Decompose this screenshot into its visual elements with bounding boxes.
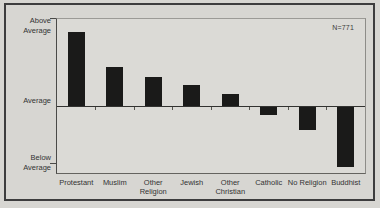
bar-no-religion	[299, 107, 316, 130]
bar-protestant	[68, 32, 85, 106]
category-boundary-tick	[134, 107, 135, 110]
bar-other-religion	[145, 77, 162, 106]
figure-canvas: Above Average Average Below Average N=77…	[0, 0, 380, 208]
bar-catholic	[260, 107, 277, 115]
bar-buddhist	[337, 107, 354, 167]
category-boundary-tick	[249, 107, 250, 110]
y-axis-label-below-average: Below Average	[0, 153, 51, 172]
category-boundary-tick	[211, 107, 212, 110]
y-axis-label-above-average: Above Average	[0, 16, 51, 35]
sample-size-annotation: N=771	[332, 24, 354, 31]
category-boundary-tick	[95, 107, 96, 110]
bar-jewish	[183, 85, 200, 106]
x-label-buddhist: Buddhist	[314, 179, 378, 188]
bar-muslim	[106, 67, 123, 106]
y-axis-label-average: Average	[0, 96, 51, 106]
category-boundary-tick	[288, 107, 289, 110]
bar-other-christian	[222, 94, 239, 106]
plot-area: N=771	[56, 18, 366, 174]
category-boundary-tick	[172, 107, 173, 110]
category-boundary-tick	[326, 107, 327, 110]
